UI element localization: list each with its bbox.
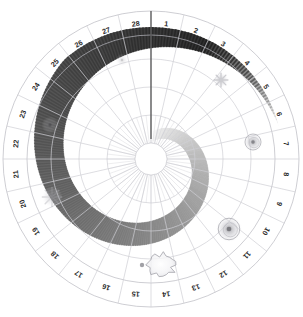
sector-label-17[interactable]: 17 bbox=[73, 268, 85, 280]
galaxy-marker-sector-4 bbox=[214, 73, 229, 88]
sector-label-11[interactable]: 11 bbox=[241, 249, 253, 261]
sector-label-5[interactable]: 5 bbox=[261, 83, 271, 91]
galaxy-marker-sector-20 bbox=[42, 187, 63, 208]
galaxy-marker-sector-7 bbox=[243, 132, 263, 152]
diagram-canvas: 1234567891011121314151617181920212223242… bbox=[0, 0, 303, 317]
sector-label-1[interactable]: 1 bbox=[164, 19, 169, 28]
galaxy-marker-sector-10 bbox=[216, 216, 243, 243]
sector-label-28[interactable]: 28 bbox=[131, 19, 140, 29]
sector-label-19[interactable]: 19 bbox=[30, 226, 42, 238]
point-marker-sector-15 bbox=[140, 263, 144, 267]
sector-label-18[interactable]: 18 bbox=[49, 249, 61, 261]
galaxy-marker-faint-top bbox=[116, 54, 129, 67]
sector-label-9[interactable]: 9 bbox=[274, 201, 284, 208]
sector-label-16[interactable]: 16 bbox=[101, 282, 112, 293]
sector-label-13[interactable]: 13 bbox=[191, 282, 202, 293]
sector-label-8[interactable]: 8 bbox=[281, 172, 290, 177]
sector-label-3[interactable]: 3 bbox=[219, 39, 227, 49]
sector-label-24[interactable]: 24 bbox=[30, 81, 42, 93]
sector-label-15[interactable]: 15 bbox=[131, 289, 140, 299]
sector-label-20[interactable]: 20 bbox=[17, 199, 28, 210]
nebula-blob-sector-14 bbox=[146, 252, 176, 277]
sector-label-6[interactable]: 6 bbox=[274, 111, 284, 118]
sector-label-10[interactable]: 10 bbox=[260, 226, 272, 238]
sector-label-21[interactable]: 21 bbox=[11, 170, 21, 179]
sector-label-22[interactable]: 22 bbox=[11, 139, 21, 148]
sector-label-12[interactable]: 12 bbox=[218, 268, 230, 280]
sector-label-23[interactable]: 23 bbox=[17, 109, 28, 120]
galaxy-marker-sector-23 bbox=[42, 117, 59, 134]
polar-wheel-chart: 1234567891011121314151617181920212223242… bbox=[0, 0, 303, 317]
sector-label-7[interactable]: 7 bbox=[281, 141, 290, 146]
sector-label-2[interactable]: 2 bbox=[193, 26, 200, 36]
sector-label-14[interactable]: 14 bbox=[162, 289, 171, 299]
